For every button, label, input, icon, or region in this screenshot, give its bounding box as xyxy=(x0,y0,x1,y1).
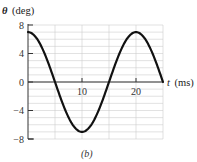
figure-caption: (b) xyxy=(81,148,93,160)
x-tick-label: 20 xyxy=(131,86,141,97)
y-tick-label: 8 xyxy=(19,20,24,31)
y-tick-label: −8 xyxy=(13,134,24,145)
axes xyxy=(28,24,163,139)
y-axis-unit: (deg) xyxy=(12,5,35,17)
x-axis-title: t (ms) xyxy=(167,77,194,89)
x-axis-unit: (ms) xyxy=(175,77,195,89)
y-axis-title: θ (deg) xyxy=(2,5,35,17)
y-tick-label: −4 xyxy=(13,105,24,116)
y-axis-symbol: θ xyxy=(2,5,8,16)
y-tick-label: 4 xyxy=(19,48,24,59)
x-axis-symbol: t xyxy=(167,77,171,88)
theta-vs-time-chart: 840−4−8 1020 θ (deg) t (ms) (b) xyxy=(0,0,197,162)
x-tick-label: 10 xyxy=(77,86,87,97)
y-tick-label: 0 xyxy=(19,77,24,88)
y-tick-labels: 840−4−8 xyxy=(13,20,33,145)
